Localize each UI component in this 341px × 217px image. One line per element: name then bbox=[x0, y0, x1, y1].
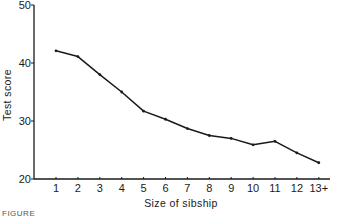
data-point bbox=[296, 152, 299, 155]
data-point bbox=[77, 55, 80, 58]
data-point bbox=[252, 143, 255, 146]
y-tick-label: 30 bbox=[19, 115, 31, 127]
y-tick-label: 20 bbox=[19, 173, 31, 185]
x-tick-label: 1 bbox=[53, 182, 59, 194]
data-point bbox=[230, 137, 233, 140]
x-tick-label: 8 bbox=[206, 182, 212, 194]
y-tick-label: 40 bbox=[19, 57, 31, 69]
x-tick-label: 13+ bbox=[309, 182, 328, 194]
data-point bbox=[186, 127, 189, 130]
y-tick-label: 50 bbox=[19, 0, 31, 11]
data-point bbox=[98, 73, 101, 76]
axes bbox=[34, 5, 330, 179]
x-axis-title: Size of sibship bbox=[144, 197, 218, 209]
x-tick-label: 11 bbox=[269, 182, 280, 194]
data-markers bbox=[55, 49, 321, 164]
x-tick-label: 12 bbox=[291, 182, 303, 194]
x-tick-label: 10 bbox=[247, 182, 259, 194]
figure-caption: FIGURE bbox=[2, 209, 35, 217]
data-point bbox=[142, 110, 145, 113]
x-tick-label: 5 bbox=[141, 182, 147, 194]
y-axis-title: Test score bbox=[1, 69, 13, 121]
x-tick-label: 4 bbox=[119, 182, 125, 194]
x-tick-label: 7 bbox=[184, 182, 190, 194]
x-tick-label: 2 bbox=[75, 182, 81, 194]
data-point bbox=[164, 118, 167, 121]
x-tick-label: 9 bbox=[228, 182, 234, 194]
data-point bbox=[208, 134, 211, 137]
x-tick-label: 6 bbox=[162, 182, 168, 194]
x-tick-label: 3 bbox=[97, 182, 103, 194]
data-point bbox=[274, 140, 277, 143]
data-point bbox=[120, 91, 123, 94]
series-line bbox=[56, 51, 319, 163]
line-chart: 20304050 12345678910111213+ Test score S… bbox=[0, 0, 341, 217]
y-ticks: 20304050 bbox=[19, 0, 34, 185]
data-point bbox=[55, 49, 58, 52]
data-point bbox=[317, 161, 320, 164]
